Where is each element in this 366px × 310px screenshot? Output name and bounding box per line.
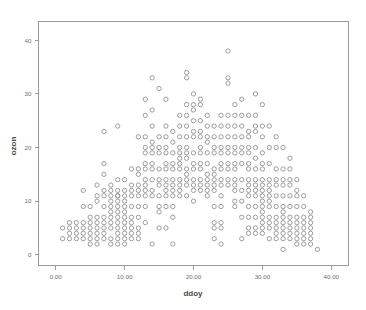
x-tick-label: 10.00 bbox=[117, 273, 133, 280]
scatter-plot-figure: 0.0010.0020.0030.0040.00 010203040 ddoy … bbox=[0, 0, 366, 310]
y-tick-label: 20 bbox=[25, 144, 32, 151]
y-tick-label: 10 bbox=[25, 197, 32, 204]
y-tick-label: 0 bbox=[28, 251, 32, 258]
x-tick-label: 30.00 bbox=[255, 273, 271, 280]
x-axis-title: ddoy bbox=[183, 289, 203, 298]
x-tick-label: 20.00 bbox=[186, 273, 202, 280]
figure-background bbox=[0, 0, 366, 310]
y-axis-title: ozon bbox=[9, 137, 18, 156]
x-tick-label: 0.00 bbox=[50, 273, 63, 280]
x-tick-label: 40.00 bbox=[324, 273, 340, 280]
y-tick-label: 30 bbox=[25, 90, 32, 97]
chart-canvas: 0.0010.0020.0030.0040.00 010203040 ddoy … bbox=[0, 0, 366, 310]
y-tick-label: 40 bbox=[25, 37, 32, 44]
